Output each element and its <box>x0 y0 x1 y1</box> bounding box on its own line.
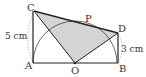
label-a: A <box>24 60 33 71</box>
label-d: D <box>118 23 126 34</box>
shaded-triangle-cod <box>34 11 118 63</box>
label-o: O <box>71 65 79 76</box>
label-p: P <box>85 13 92 24</box>
geometry-figure: C A B D O P 5 cm 3 cm <box>0 0 146 77</box>
label-b: B <box>119 63 126 74</box>
label-c: C <box>27 2 35 13</box>
label-ac-length: 5 cm <box>5 31 28 41</box>
label-bd-length: 3 cm <box>121 44 144 54</box>
point-o-dot <box>74 62 77 65</box>
